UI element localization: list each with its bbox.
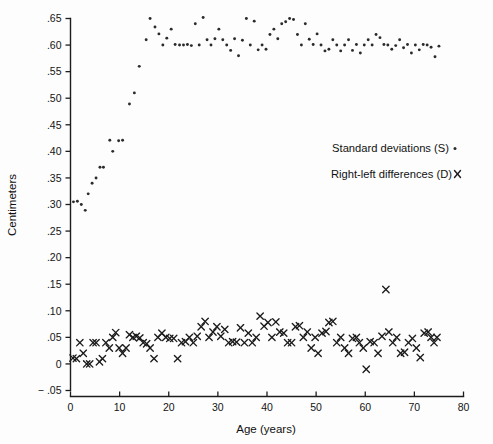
data-point [414,44,417,47]
legend-label-standard-deviations: Standard deviations (S) [332,142,449,154]
data-point [117,139,120,142]
data-point [386,329,392,335]
legend-label-right-left-differences: Right-left differences (D) [331,168,452,180]
data-point [111,150,114,153]
data-point [331,38,334,41]
data-point [308,38,311,41]
data-point [198,324,204,330]
data-point [99,166,102,169]
x-tick-label: 30 [212,401,224,413]
data-point [241,39,244,42]
legend-marker-x-icon [455,171,461,178]
data-point [417,354,423,360]
data-point [72,200,75,203]
data-point [265,48,268,51]
data-point [147,345,153,351]
data-point [210,329,216,335]
data-point [233,339,239,345]
y-tick-label: .55 [47,65,62,77]
data-point [284,20,287,23]
data-point [245,330,251,336]
data-point [426,44,429,47]
data-point [394,44,397,47]
data-point [157,32,160,35]
y-tick-label: .50 [47,92,62,104]
data-point [182,44,185,47]
x-tick-label: 20 [163,401,175,413]
data-point [145,38,148,41]
data-point [206,38,209,41]
data-point [371,44,374,47]
y-tick-label: .35 [47,172,62,184]
data-point [76,200,79,203]
x-tick-label: 50 [310,401,322,413]
data-point [360,345,366,351]
data-point [363,44,366,47]
data-point [257,48,260,51]
series-right-left-differences [70,286,440,372]
y-tick-label: .05 [47,331,62,343]
y-tick-label: .10 [47,305,62,317]
data-point [245,17,248,20]
y-tick-label: 0 [56,358,62,370]
scatter-plot-figure: − .050.05.10.15.20.25.30.35.40.45.50.55.… [0,0,493,444]
data-point [133,91,136,94]
data-point [312,334,318,340]
data-point [276,37,279,40]
x-axis-ticks: 01020304050607080 [68,392,470,413]
data-point [202,318,208,324]
data-point [214,324,220,330]
data-point [268,33,271,36]
data-point [355,43,358,46]
data-point [237,325,243,331]
y-tick-label: .25 [47,225,62,237]
y-tick-label: − .05 [38,384,62,396]
data-point [186,43,189,46]
data-point [304,22,307,25]
data-point [430,46,433,49]
data-point [241,339,247,345]
data-point [149,17,152,20]
data-point [87,192,90,195]
data-point [337,334,343,340]
y-tick-label: .60 [47,39,62,51]
data-point [375,33,378,36]
x-tick-label: 0 [68,401,74,413]
data-point [217,28,220,31]
y-tick-label: .30 [47,198,62,210]
data-point [170,335,176,341]
data-point [343,44,346,47]
data-point [316,32,319,35]
y-axis-title: Centimeters [6,174,18,236]
data-point [218,333,224,339]
data-point [304,329,310,335]
data-point [324,49,327,52]
data-point [178,44,181,47]
data-point [288,339,294,345]
data-point [312,43,315,46]
data-point [308,345,314,351]
data-point [296,33,299,36]
y-axis-ticks: − .050.05.10.15.20.25.30.35.40.45.50.55.… [38,12,71,396]
plot-canvas: − .050.05.10.15.20.25.30.35.40.45.50.55.… [0,0,493,444]
data-point [99,355,105,361]
data-point [363,366,369,372]
data-point [339,49,342,52]
data-point [386,44,389,47]
data-point [269,334,275,340]
data-point [341,345,347,351]
data-point [273,319,279,325]
data-point [128,103,131,106]
data-point [165,37,168,40]
data-point [375,350,381,356]
data-point [292,18,295,21]
data-point [190,339,196,345]
data-point [237,54,240,57]
data-point [194,22,197,25]
data-point [194,333,200,339]
data-point [402,46,405,49]
data-point [221,38,224,41]
data-point [320,44,323,47]
data-point [379,36,382,39]
data-point [154,26,157,29]
